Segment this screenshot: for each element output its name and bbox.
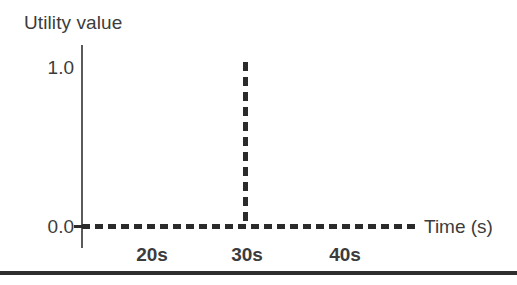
x-axis-dashed-line xyxy=(82,224,420,229)
y-axis-title: Utility value xyxy=(24,11,122,35)
y-tick-label-1-0: 1.0 xyxy=(22,57,74,79)
x-axis-title: Time (s) xyxy=(424,216,493,238)
y-tick-label-0-0: 0.0 xyxy=(22,216,74,238)
x-tick-label-20s: 20s xyxy=(112,244,192,266)
x-tick-label-30s: 30s xyxy=(207,244,287,266)
x-tick-label-40s: 40s xyxy=(305,244,385,266)
utility-spike-30s xyxy=(243,62,248,227)
y-axis-line xyxy=(81,45,83,248)
bottom-rule xyxy=(0,271,517,275)
utility-value-chart: Utility value 1.0 0.0 20s 30s 40s Time (… xyxy=(0,0,517,285)
